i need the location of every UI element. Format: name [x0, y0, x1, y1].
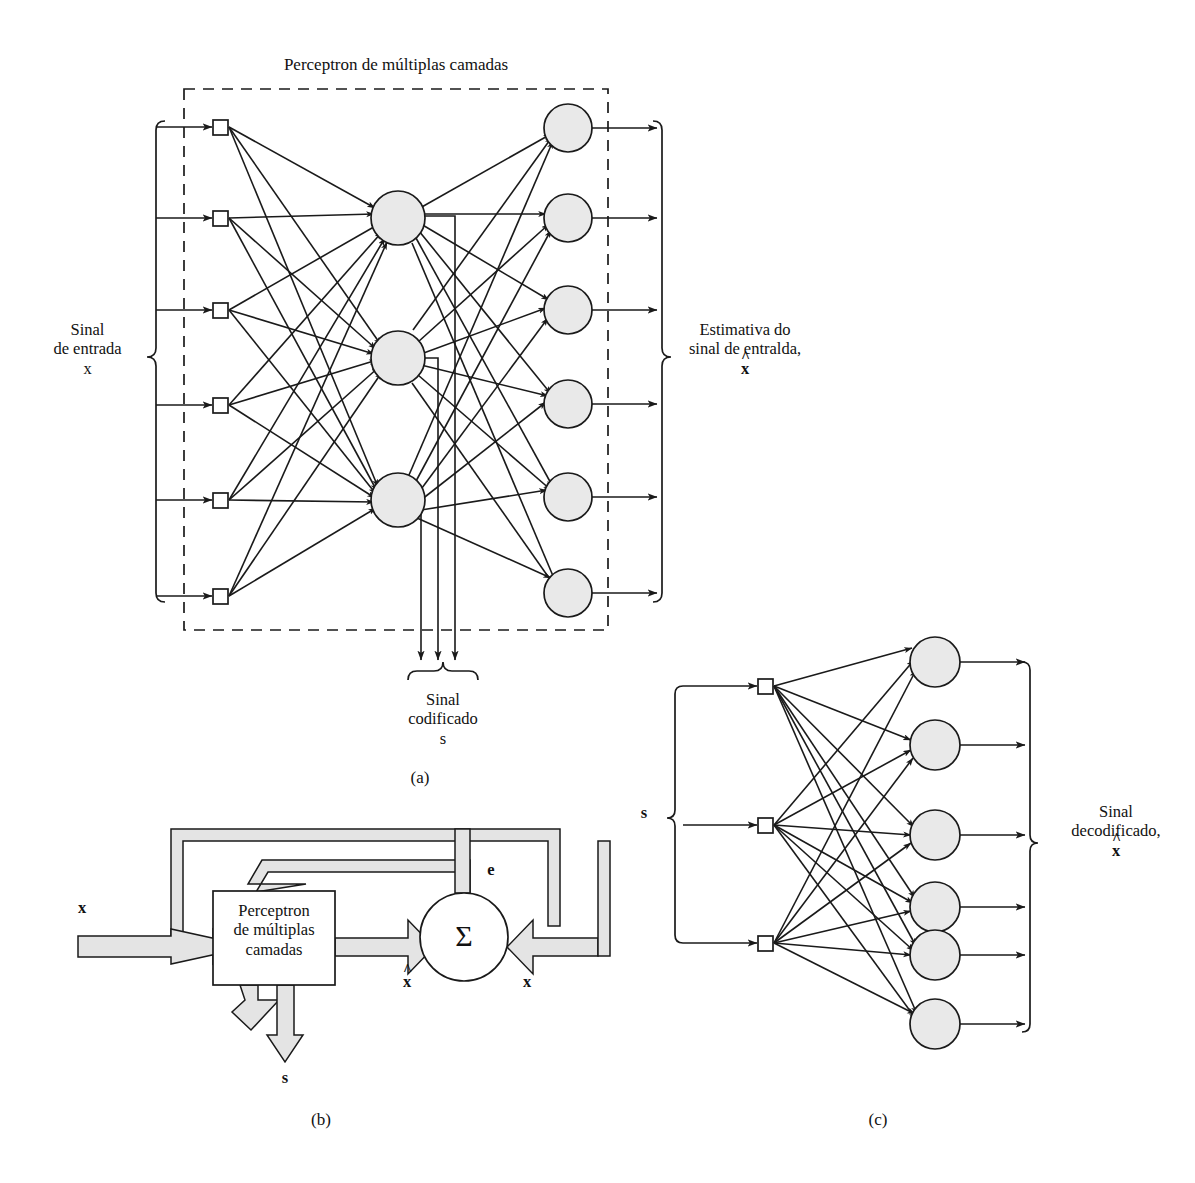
- input-node-square: [213, 211, 228, 226]
- input-node-square: [758, 818, 773, 833]
- panel-a-output-arrows: [591, 128, 657, 593]
- output-neuron: [910, 720, 960, 770]
- decoded-label-line1: Sinal: [1040, 802, 1192, 821]
- output-neuron: [544, 104, 592, 152]
- panel-a-code-brace: [408, 662, 478, 680]
- input-node-square: [758, 936, 773, 951]
- input-node-square: [213, 303, 228, 318]
- hat-accent: ^: [403, 962, 411, 978]
- output-label-symbol: ^x: [665, 359, 825, 378]
- block-label-line3: camadas: [213, 940, 335, 959]
- panel-c-output-nodes: [910, 637, 960, 1049]
- input-label-line2: de entrada: [25, 339, 150, 358]
- output-neuron: [910, 930, 960, 980]
- output-neuron: [544, 286, 592, 334]
- hidden-neuron: [371, 191, 425, 245]
- panel-b-s-output-label: s: [271, 1068, 299, 1087]
- block-side-arrow: [232, 985, 279, 1030]
- panel-b-x-input-label: x: [68, 898, 96, 917]
- x-reference-arrow: [507, 920, 598, 974]
- panel-b-signal-paths: [78, 829, 610, 1062]
- panel-a-input-hidden-edges: [229, 127, 387, 596]
- panel-c-edges: [774, 648, 917, 1019]
- xhat-arrow: [335, 920, 434, 974]
- panel-b-sigma-symbol: Σ: [434, 918, 494, 953]
- panel-a-output-label: Estimativa do sinal de entralda, ^x: [665, 320, 825, 378]
- panel-a-input-label: Sinal de entrada x: [25, 320, 150, 378]
- panel-b-caption: (b): [288, 1110, 354, 1130]
- code-label-line2: codificado: [363, 709, 523, 728]
- panel-a-code-label: Sinal codificado s: [363, 690, 523, 748]
- panel-c-output-arrows: [959, 662, 1025, 1024]
- hat-accent: ^: [1112, 831, 1120, 847]
- error-arrow: [455, 829, 470, 893]
- panel-c-input-arrows: [683, 686, 757, 943]
- panel-a-caption: (a): [380, 768, 460, 788]
- output-neuron: [544, 569, 592, 617]
- panel-a-title: Perceptron de múltiplas camadas: [184, 55, 608, 75]
- output-neuron: [544, 194, 592, 242]
- input-node-square: [213, 493, 228, 508]
- panel-a-input-nodes: [213, 120, 228, 604]
- block-label-line2: de múltiplas: [213, 920, 335, 939]
- panel-c-output-brace: [1022, 662, 1038, 1032]
- error-return-path: [598, 841, 610, 956]
- input-node-square: [213, 120, 228, 135]
- output-neuron: [544, 473, 592, 521]
- diagram-canvas: [0, 0, 1195, 1183]
- output-neuron: [910, 637, 960, 687]
- code-label-symbol: s: [363, 729, 523, 748]
- panel-c-input-brace: [667, 686, 683, 943]
- hat-accent: ^: [741, 349, 749, 365]
- output-neuron: [910, 810, 960, 860]
- panel-c-output-label: Sinal decodificado, ^x: [1040, 802, 1192, 860]
- output-label-line1: Estimativa do: [665, 320, 825, 339]
- hidden-neuron: [371, 473, 425, 527]
- panel-a-hidden-output-edges: [409, 134, 556, 585]
- panel-a-hidden-nodes: [371, 191, 425, 527]
- panel-c-caption: (c): [845, 1110, 911, 1130]
- output-neuron: [910, 882, 960, 932]
- figure-root: Perceptron de múltiplas camadas Sinal de…: [0, 0, 1195, 1183]
- panel-b-block-label: Perceptron de múltiplas camadas: [213, 901, 335, 959]
- code-label-line1: Sinal: [363, 690, 523, 709]
- input-node-square: [213, 589, 228, 604]
- panel-c-input-nodes: [758, 679, 773, 951]
- panel-b-xhat-label: ^x: [392, 972, 422, 991]
- input-label-line1: Sinal: [25, 320, 150, 339]
- panel-a-output-nodes: [544, 104, 592, 617]
- panel-b-reference-label: x: [513, 972, 541, 991]
- input-label-symbol: x: [25, 359, 150, 378]
- output-neuron: [910, 999, 960, 1049]
- panel-b-error-label: e: [478, 860, 504, 879]
- decoded-label-symbol: ^x: [1040, 841, 1192, 860]
- panel-c-input-label: s: [630, 803, 658, 822]
- output-neuron: [544, 380, 592, 428]
- input-node-square: [213, 398, 228, 413]
- s-output-arrow: [267, 985, 303, 1062]
- input-node-square: [758, 679, 773, 694]
- hidden-neuron: [371, 331, 425, 385]
- block-label-line1: Perceptron: [213, 901, 335, 920]
